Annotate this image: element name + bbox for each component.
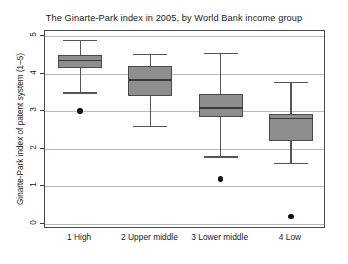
boxplot-figure: The Ginarte-Park index in 2005, by World… <box>0 0 348 264</box>
lower-whisker-cap <box>274 163 308 164</box>
upper-whisker <box>290 82 291 114</box>
upper-whisker <box>220 53 221 94</box>
y-tick-label-5: 5 <box>26 30 40 39</box>
x-tick-label-3: 3 Lower middle <box>185 232 255 242</box>
median-line <box>269 118 313 120</box>
box-iqr <box>128 66 172 96</box>
box-iqr <box>58 55 102 68</box>
box-plot-4[interactable] <box>256 31 326 227</box>
upper-whisker <box>150 54 151 66</box>
upper-whisker-cap <box>133 54 167 55</box>
lower-whisker <box>290 141 291 163</box>
lower-whisker <box>150 96 151 126</box>
y-axis-label: Ginarte-Park index of patent system (1–5… <box>16 53 25 205</box>
lower-whisker-cap <box>63 92 97 93</box>
y-tick-label-2: 2 <box>26 143 40 152</box>
box-iqr <box>199 94 243 117</box>
box-plot-2[interactable] <box>115 31 185 227</box>
y-tick-label-4: 4 <box>26 68 40 77</box>
y-tick-label-3: 3 <box>26 105 40 114</box>
y-tick-label-1: 1 <box>26 180 40 189</box>
y-axis-label-container: Ginarte-Park index of patent system (1–5… <box>13 30 27 228</box>
lower-whisker-cap <box>133 126 167 127</box>
x-tick-label-4: 4 Low <box>255 232 325 242</box>
outlier-point-1[interactable] <box>288 214 294 220</box>
x-tick-label-2: 2 Upper middle <box>114 232 184 242</box>
chart-title: The Ginarte-Park index in 2005, by World… <box>0 13 348 23</box>
x-tick-label-1: 1 High <box>44 232 114 242</box>
box-plot-1[interactable] <box>45 31 115 227</box>
upper-whisker-cap <box>63 40 97 41</box>
median-line <box>199 107 243 109</box>
upper-whisker <box>80 40 81 55</box>
median-line <box>58 60 102 62</box>
median-line <box>128 79 172 81</box>
plot-area <box>44 30 325 228</box>
lower-whisker-cap <box>204 156 238 157</box>
upper-whisker-cap <box>274 82 308 83</box>
y-tick-label-0: 0 <box>26 218 40 227</box>
lower-whisker <box>220 117 221 157</box>
upper-whisker-cap <box>204 53 238 54</box>
outlier-point-1[interactable] <box>77 108 83 114</box>
box-plot-3[interactable] <box>186 31 256 227</box>
lower-whisker <box>80 68 81 92</box>
outlier-point-1[interactable] <box>218 176 224 182</box>
